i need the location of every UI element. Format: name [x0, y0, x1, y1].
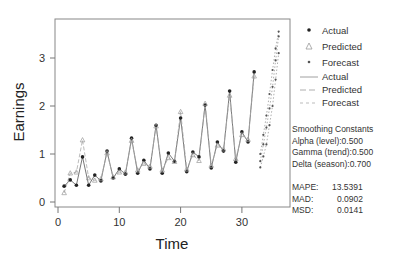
legend: Actual Predicted Forecast Actual Predict…	[296, 22, 362, 109]
legend-item-forecast-marker: Forecast	[296, 54, 362, 70]
legend-item-forecast-line: Forecast	[296, 96, 362, 109]
dotted-line-icon	[296, 101, 322, 105]
series-line	[260, 36, 278, 161]
dashed-line-icon	[296, 88, 322, 92]
msd-row: MSD:0.0141	[292, 205, 373, 217]
y-tick-label: 3	[39, 52, 45, 64]
y-tick-label: 1	[39, 148, 45, 160]
alpha-value: Alpha (level):0.500	[292, 136, 373, 148]
series-line	[260, 53, 278, 167]
y-tick-label: 0	[39, 196, 45, 208]
solid-line-icon	[296, 75, 322, 79]
legend-item-predicted-marker: Predicted	[296, 38, 362, 54]
y-tick-label: 2	[39, 100, 45, 112]
x-tick-label: 0	[55, 216, 61, 228]
y-axis-title: Earnings	[10, 82, 27, 141]
data-series	[62, 31, 280, 195]
x-tick-label: 20	[174, 216, 186, 228]
filled-dot-icon	[296, 26, 322, 34]
x-axis: 0102030	[55, 207, 248, 228]
legend-item-predicted-line: Predicted	[296, 83, 362, 96]
delta-value: Delta (season):0.700	[292, 159, 373, 171]
legend-item-actual-marker: Actual	[296, 22, 362, 38]
legend-item-actual-line: Actual	[296, 70, 362, 83]
gamma-value: Gamma (trend):0.500	[292, 147, 373, 159]
x-tick-label: 10	[113, 216, 125, 228]
x-tick-label: 30	[236, 216, 248, 228]
smoothing-stats: Smoothing Constants Alpha (level):0.500 …	[292, 124, 373, 217]
y-axis: 0123	[39, 52, 55, 208]
mad-row: MAD:0.0902	[292, 194, 373, 206]
mape-row: MAPE:13.5391	[292, 182, 373, 194]
small-dot-icon	[296, 58, 322, 66]
x-axis-title: Time	[156, 235, 189, 252]
stats-heading: Smoothing Constants	[292, 124, 373, 136]
series-line	[64, 76, 254, 193]
triangle-icon	[296, 42, 322, 50]
